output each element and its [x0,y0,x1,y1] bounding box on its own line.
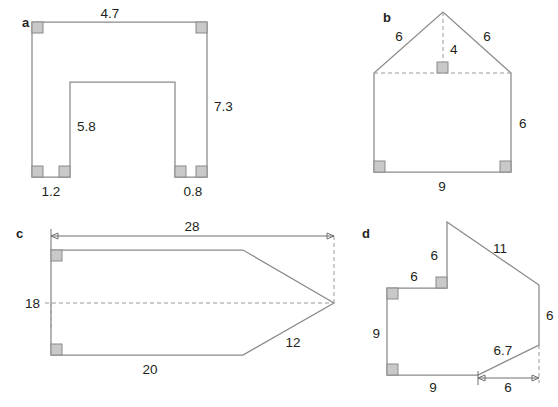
figure-a: a 4.7 7.3 5.8 1.2 0.8 [22,6,233,199]
figure-d-letter: d [362,226,370,241]
figure-d-label-lower-slant: 6.7 [494,343,513,358]
figure-b-letter: b [383,10,391,25]
figure-d-label-bottom: 9 [429,380,437,395]
right-angle-marker [387,288,398,299]
figure-d-label-long-slant: 11 [493,241,507,256]
right-angle-marker [175,166,186,177]
figure-c-label-lower-slant: 12 [285,335,300,350]
right-angle-marker [51,250,62,261]
geometry-worksheet: a 4.7 7.3 5.8 1.2 0.8 b [0,0,558,407]
figure-b: b 6 4 6 6 9 [374,10,527,194]
figure-d-label-slant-run: 6 [504,380,512,395]
right-angle-marker [196,166,207,177]
figure-c: c 28 18 20 12 [16,219,334,377]
figure-a-outline [32,22,207,177]
right-angle-marker [32,166,43,177]
figures-svg: a 4.7 7.3 5.8 1.2 0.8 b [0,0,558,407]
right-angle-marker [436,277,447,288]
figure-a-label-left-foot: 1.2 [42,184,61,199]
figure-a-letter: a [22,15,30,30]
figure-c-label-height: 18 [25,296,40,311]
figure-a-label-right-foot: 0.8 [184,184,203,199]
figure-d-label-left-side: 9 [372,326,380,341]
figure-a-label-notch: 5.8 [77,119,96,134]
figure-d-label-right-side: 6 [546,308,554,323]
figure-b-label-roof-right: 6 [483,29,491,44]
figure-b-label-right-side: 6 [519,116,527,131]
figure-d-label-step-vertical: 6 [430,248,438,263]
right-angle-marker [196,22,207,33]
figure-c-letter: c [16,226,23,241]
right-angle-marker [437,62,448,73]
right-angle-marker [374,161,385,172]
figure-b-label-roof-height: 4 [450,42,458,57]
figure-b-label-base: 9 [438,179,446,194]
right-angle-marker [59,166,70,177]
figure-d-label-step-horizontal: 6 [410,269,418,284]
figure-d-outline [387,222,539,375]
figure-a-label-top: 4.7 [101,6,120,21]
figure-c-label-overall-width: 28 [184,219,199,234]
right-angle-marker [500,161,511,172]
figure-d: d 6 6 11 9 6 6.7 9 6 [362,222,554,395]
right-angle-marker [51,344,62,355]
figure-b-label-roof-left: 6 [395,29,403,44]
figure-a-label-right: 7.3 [214,99,233,114]
right-angle-marker [32,22,43,33]
right-angle-marker [387,364,398,375]
figure-c-label-bottom: 20 [142,362,157,377]
